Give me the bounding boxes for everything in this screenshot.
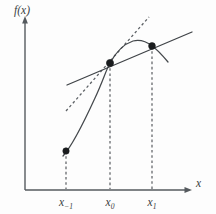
- point-x-minus-1: [63, 148, 69, 154]
- tick-label-x-zero: x0: [105, 196, 115, 211]
- y-axis-label-text: f(x): [14, 4, 30, 17]
- point-x-one: [149, 43, 156, 50]
- figure-container: f(x) x x−1 x0 x1: [0, 0, 216, 214]
- x-axis-label-text: x: [195, 177, 202, 189]
- y-axis-label: f(x): [14, 4, 30, 17]
- math-figure-canvas: f(x) x x−1 x0 x1: [0, 0, 216, 214]
- tick-label-x-minus-1-sub: −1: [64, 202, 73, 211]
- point-x-zero: [106, 59, 113, 66]
- tick-label-x-zero-sub: 0: [111, 202, 115, 211]
- tick-label-x-minus-1: x−1: [58, 196, 73, 211]
- tick-label-x-one-sub: 1: [153, 202, 157, 211]
- x-axis-arrowhead: [185, 187, 193, 193]
- y-axis-arrowhead: [22, 16, 28, 24]
- tick-label-x-one: x1: [147, 196, 157, 211]
- x-axis-label: x: [195, 177, 202, 189]
